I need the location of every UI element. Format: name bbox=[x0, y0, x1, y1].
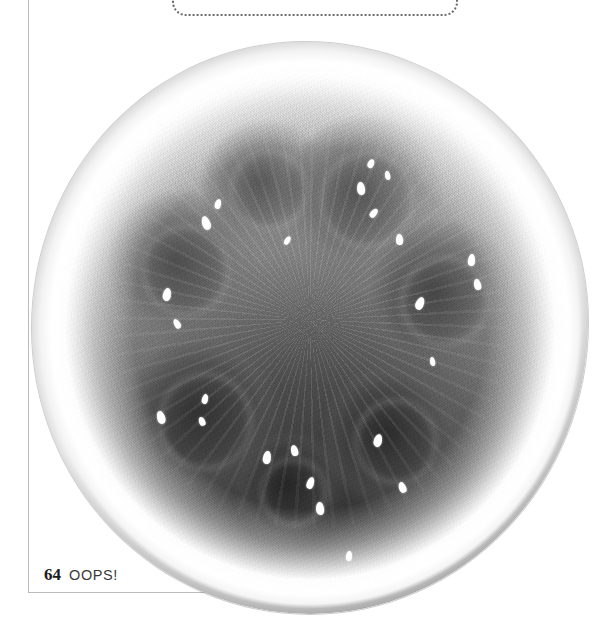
page-number: 64 bbox=[44, 565, 61, 585]
section-title: OOPS! bbox=[69, 567, 118, 583]
watermelon-slice bbox=[32, 42, 588, 614]
magazine-page: 64 OOPS! bbox=[0, 0, 600, 621]
photo-grain-texture bbox=[32, 42, 588, 614]
watermelon-photograph bbox=[32, 42, 588, 614]
page-frame-vertical-rule bbox=[28, 0, 29, 593]
dotted-callout-box bbox=[172, 0, 458, 16]
page-footer: 64 OOPS! bbox=[44, 565, 118, 585]
